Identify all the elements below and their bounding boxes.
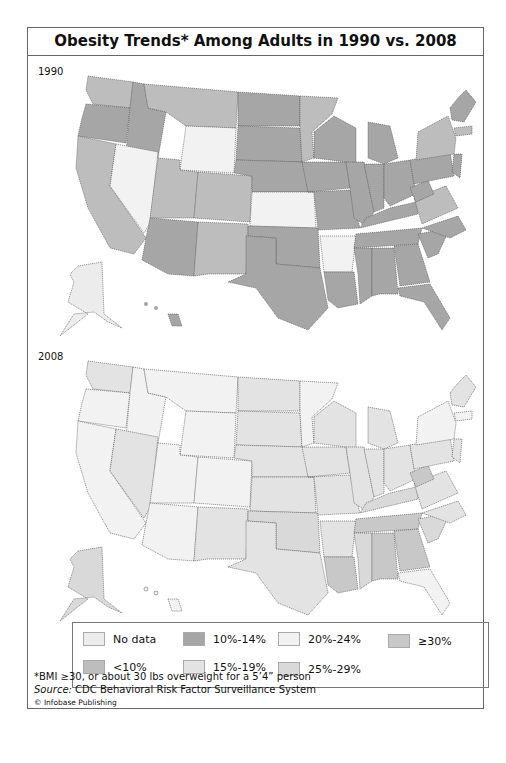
legend-label: 20%-24% bbox=[308, 633, 361, 646]
legend-item-20-24: 20%-24% bbox=[278, 632, 361, 646]
figure-frame: Obesity Trends* Among Adults in 1990 vs.… bbox=[27, 27, 484, 709]
source-text: CDC Behavioral Risk Factor Surveillance … bbox=[72, 684, 316, 695]
legend-label: 25%-29% bbox=[308, 663, 361, 676]
legend-item-no-data: No data bbox=[83, 632, 156, 646]
source-line: Source: CDC Behavioral Risk Factor Surve… bbox=[34, 684, 316, 695]
legend-swatch bbox=[83, 632, 105, 646]
copyright: © Infobase Publishing bbox=[34, 698, 117, 707]
source-label: Source: bbox=[34, 684, 72, 695]
map-1990 bbox=[38, 68, 478, 338]
legend-label: ≥30% bbox=[418, 635, 452, 648]
legend-swatch bbox=[388, 634, 410, 648]
legend-item-30-plus: ≥30% bbox=[388, 634, 452, 648]
map-2008 bbox=[38, 353, 478, 623]
legend-item-10-14: 10%-14% bbox=[183, 632, 266, 646]
legend-swatch bbox=[183, 632, 205, 646]
footnote: *BMI ≥30, or about 30 lbs overweight for… bbox=[34, 671, 311, 682]
legend-label: No data bbox=[113, 633, 156, 646]
legend-label: 10%-14% bbox=[213, 633, 266, 646]
legend-swatch bbox=[278, 632, 300, 646]
figure-title: Obesity Trends* Among Adults in 1990 vs.… bbox=[28, 28, 483, 56]
